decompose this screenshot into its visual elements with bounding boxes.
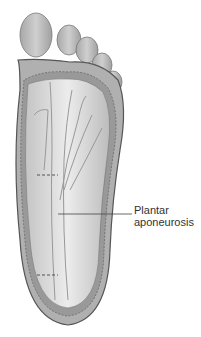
label-plantar-aponeurosis: Plantar aponeurosis [134, 204, 194, 228]
foot-illustration [0, 0, 201, 337]
foot-diagram: Plantar aponeurosis [0, 0, 201, 337]
label-line-2: aponeurosis [134, 216, 194, 228]
label-line-1: Plantar [134, 204, 194, 216]
